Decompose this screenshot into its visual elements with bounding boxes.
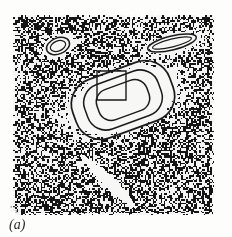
figure-panel-a: ˚˚ₓ (a) [0,0,232,237]
scan-bleedthrough-top [0,0,232,13]
speckle-noise-layer [13,15,214,215]
scan-smudge-marks: ˚˚ₓ [10,206,26,213]
scan-bleedthrough-bottom [0,218,232,237]
speckle-image-panel [13,15,214,215]
